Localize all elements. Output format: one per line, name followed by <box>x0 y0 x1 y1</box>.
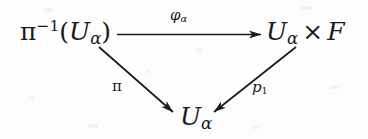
pi-symbol: π <box>112 77 122 95</box>
base-node: Uα <box>180 104 212 129</box>
alpha-subscript: α <box>181 13 188 24</box>
commutative-diagram: π−1(Uα) Uα×F Uα φα π p1 <box>0 0 368 139</box>
horizontal-arrow-label: φα <box>170 8 187 23</box>
u-letter: U <box>69 17 90 46</box>
alpha-subscript: α <box>90 29 101 48</box>
pi-symbol: π <box>20 17 36 46</box>
product-node: Uα×F <box>266 19 345 44</box>
u-letter: U <box>180 102 201 131</box>
alpha-subscript: α <box>287 29 298 48</box>
fiber-letter: F <box>327 17 344 46</box>
varphi-symbol: φ <box>170 6 181 24</box>
exponent-minus-one: −1 <box>36 17 59 35</box>
open-paren: ( <box>59 17 69 46</box>
u-letter: U <box>266 17 287 46</box>
times-symbol: × <box>302 17 323 46</box>
left-diagonal-arrow-label: π <box>112 79 122 94</box>
p-symbol: p <box>252 78 262 96</box>
alpha-subscript: α <box>201 114 212 133</box>
left-diagonal-arrow-line <box>99 47 173 112</box>
right-diagonal-arrow-label: p1 <box>252 80 268 95</box>
preimage-node: π−1(Uα) <box>20 19 111 44</box>
one-subscript: 1 <box>262 85 268 96</box>
close-paren: ) <box>101 17 111 46</box>
